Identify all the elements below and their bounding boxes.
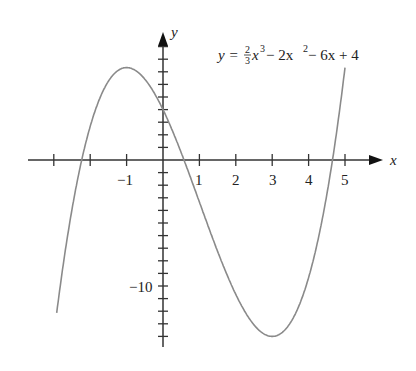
svg-text:x: x	[251, 47, 259, 63]
x-tick-label: 2	[232, 172, 240, 188]
x-tick-label: 1	[195, 172, 203, 188]
cubic-function-graph: x y −1 1 2 3 4 5 −10 y = 2 3 x 3 − 2x 2 …	[0, 0, 416, 371]
x-axis-arrow-icon	[369, 155, 383, 165]
y-tick-label: −10	[129, 279, 152, 295]
x-tick-label: 4	[305, 172, 313, 188]
svg-text:− 6x + 4: − 6x + 4	[308, 47, 359, 63]
function-curve	[57, 68, 345, 337]
y-axis-arrow-icon	[158, 32, 168, 46]
svg-text:2: 2	[245, 44, 250, 55]
svg-text:3: 3	[245, 55, 250, 66]
svg-text:y =: y =	[216, 47, 239, 63]
y-axis-label: y	[169, 24, 178, 40]
x-tick-label: 5	[341, 172, 349, 188]
svg-text:− 2x: − 2x	[266, 47, 294, 63]
equation-label: y = 2 3 x 3 − 2x 2 − 6x + 4	[216, 43, 359, 66]
x-tick-label: −1	[117, 172, 133, 188]
x-tick-label: 3	[269, 172, 277, 188]
svg-text:3: 3	[260, 43, 265, 54]
x-axis-label: x	[389, 152, 397, 168]
